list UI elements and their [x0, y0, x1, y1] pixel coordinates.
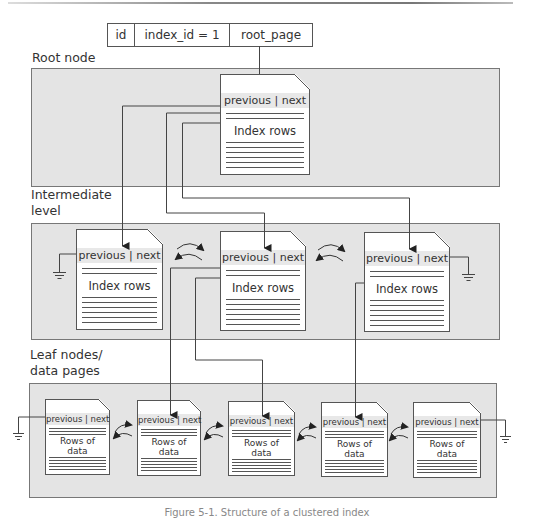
intermediate-label-line2: level	[31, 203, 112, 219]
root-node-label: Root node	[32, 50, 96, 66]
intermediate-index-page-1[interactable]: previous | next Index rows	[76, 229, 163, 330]
page-pointer-header: previous | next	[229, 415, 294, 427]
page-pointer-header: previous | next	[77, 248, 162, 263]
leaf-label-line2: data pages	[30, 363, 102, 379]
page-pointer-header: previous | next	[221, 250, 305, 265]
row-lines	[82, 297, 157, 323]
top-rule	[8, 2, 513, 4]
page-body-text: Rows ofdata	[322, 439, 387, 459]
body-line2: data	[322, 449, 387, 459]
row-lines	[325, 431, 384, 438]
page-pointer-header: previous | next	[414, 416, 480, 428]
body-line2: data	[414, 449, 480, 459]
intermediate-index-page-3[interactable]: previous | next Index rows	[364, 232, 450, 332]
figure-caption: Figure 5-1. Structure of a clustered ind…	[0, 507, 534, 518]
page-body-text: Index rows	[365, 282, 449, 296]
body-line1: Rows of	[138, 437, 200, 447]
page-pointer-header: previous | next	[221, 93, 309, 108]
row-lines	[226, 270, 300, 276]
row-lines	[232, 430, 291, 437]
id-cell: id	[108, 24, 135, 46]
leaf-data-page-2[interactable]: previous | next Rows ofdata	[137, 400, 201, 476]
leaf-data-page-1[interactable]: previous | next Rows ofdata	[45, 399, 110, 475]
page-body-text: Rows ofdata	[229, 438, 294, 458]
row-lines	[232, 459, 291, 472]
page-pointer-header: previous | next	[322, 416, 387, 428]
body-line2: data	[138, 447, 200, 457]
body-line1: Rows of	[46, 436, 109, 446]
page-body-text: Index rows	[77, 279, 162, 293]
page-pointer-header: previous | next	[138, 414, 200, 426]
root-index-page[interactable]: previous | next Index rows	[220, 74, 310, 175]
row-lines	[417, 460, 477, 473]
row-lines	[226, 142, 304, 168]
row-lines	[141, 458, 197, 471]
row-lines	[325, 460, 384, 473]
leaf-data-page-3[interactable]: previous | next Rows ofdata	[228, 401, 295, 476]
leaf-data-page-5[interactable]: previous | next Rows ofdata	[413, 402, 481, 478]
sys-indexes-row: id index_id = 1 root_page	[107, 23, 313, 47]
body-line1: Rows of	[229, 438, 294, 448]
row-lines	[82, 268, 157, 274]
leaf-label-line1: Leaf nodes/	[30, 347, 102, 363]
leaf-level-label: Leaf nodes/ data pages	[30, 347, 102, 379]
page-pointer-header: previous | next	[46, 413, 109, 425]
intermediate-label-line1: Intermediate	[31, 187, 112, 203]
page-body-text: Rows ofdata	[138, 437, 200, 457]
leaf-data-page-4[interactable]: previous | next Rows ofdata	[321, 402, 388, 477]
page-body-text: Index rows	[221, 281, 305, 295]
intermediate-level-label: Intermediate level	[31, 187, 112, 219]
body-line1: Rows of	[414, 439, 480, 449]
row-lines	[49, 457, 106, 470]
body-line2: data	[229, 448, 294, 458]
row-lines	[49, 428, 106, 435]
row-lines	[370, 300, 444, 326]
page-body-text: Rows ofdata	[46, 436, 109, 456]
index-id-cell: index_id = 1	[135, 24, 230, 46]
root-page-cell: root_page	[230, 24, 312, 46]
body-line1: Rows of	[322, 439, 387, 449]
page-body-text: Rows ofdata	[414, 439, 480, 459]
row-lines	[370, 271, 444, 277]
row-lines	[417, 431, 477, 438]
page-body-text: Index rows	[221, 124, 309, 138]
page-pointer-header: previous | next	[365, 251, 449, 266]
row-lines	[141, 429, 197, 436]
row-lines	[226, 299, 300, 325]
row-lines	[226, 113, 304, 119]
body-line2: data	[46, 446, 109, 456]
intermediate-index-page-2[interactable]: previous | next Index rows	[220, 231, 306, 331]
